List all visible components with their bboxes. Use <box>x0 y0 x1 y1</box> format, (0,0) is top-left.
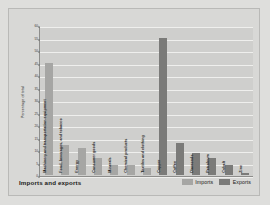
bar-slot: Copper <box>155 27 171 175</box>
legend-item-imports[interactable]: Imports <box>182 179 214 185</box>
y-tick-mark <box>38 164 40 165</box>
category-label: Cobalt <box>224 161 228 173</box>
category-label: Energy <box>77 160 81 173</box>
bar-slot: Consumer goods <box>90 27 106 175</box>
bar-slot: Food, beverages, and tobacco <box>57 27 73 175</box>
legend-label-exports: Exports <box>233 179 251 185</box>
bar-slot: Cobalt <box>220 27 236 175</box>
category-label: Copper <box>158 160 162 173</box>
screenshot-root: Percentage of total 05101520253035404550… <box>0 0 270 205</box>
plot-area: 051015202530354045505560 Machinery and t… <box>39 27 253 177</box>
bar-slot: Diamonds <box>188 27 204 175</box>
bar-slot: Textiles and clothing <box>139 27 155 175</box>
y-tick-label: 45 <box>34 63 38 66</box>
bar-slot: Petroleum <box>204 27 220 175</box>
y-tick-label: 60 <box>34 25 38 28</box>
category-label: Diamonds <box>191 155 195 173</box>
category-label: Coffee <box>175 161 179 173</box>
bar-slot: Zinc <box>237 27 253 175</box>
chart-title: Imports and exports <box>19 179 81 186</box>
legend-label-imports: Imports <box>195 179 213 185</box>
category-label: Petroleum <box>207 155 211 173</box>
y-tick-label: 50 <box>34 50 38 53</box>
chart-footer: Imports and exports ImportsExports <box>19 175 251 189</box>
y-tick-label: 10 <box>34 150 38 153</box>
legend-item-exports[interactable]: Exports <box>219 179 251 185</box>
category-label: Minerals <box>109 158 113 173</box>
y-tick-label: 20 <box>34 125 38 128</box>
bar-group: Machinery and transportation equipmentFo… <box>41 27 253 175</box>
y-tick-label: 55 <box>34 38 38 41</box>
legend-swatch-exports <box>219 179 230 185</box>
y-axis-title: Percentage of total <box>21 86 25 118</box>
y-tick-label: 25 <box>34 113 38 116</box>
bar-slot: Machinery and transportation equipment <box>41 27 57 175</box>
category-label: Zinc <box>240 165 244 173</box>
bar-slot: Chemical products <box>123 27 139 175</box>
category-label: Chemical products <box>126 139 130 173</box>
bar-slot: Coffee <box>172 27 188 175</box>
plot-area-wrapper: 051015202530354045505560 Machinery and t… <box>39 27 253 177</box>
y-tick-label: 15 <box>34 138 38 141</box>
bar-slot: Energy <box>74 27 90 175</box>
y-tick-label: 40 <box>34 75 38 78</box>
bar[interactable] <box>159 38 167 176</box>
y-tick-label: 5 <box>36 163 38 166</box>
chart-card: Percentage of total 05101520253035404550… <box>8 8 260 196</box>
category-label: Machinery and transportation equipment <box>44 100 48 173</box>
y-tick-label: 30 <box>34 100 38 103</box>
y-tick-label: 35 <box>34 88 38 91</box>
bar-slot: Minerals <box>106 27 122 175</box>
legend-swatch-imports <box>182 179 193 185</box>
legend: ImportsExports <box>182 179 251 185</box>
category-label: Textiles and clothing <box>142 136 146 173</box>
category-label: Consumer goods <box>93 142 97 173</box>
category-label: Food, beverages, and tobacco <box>60 119 64 173</box>
